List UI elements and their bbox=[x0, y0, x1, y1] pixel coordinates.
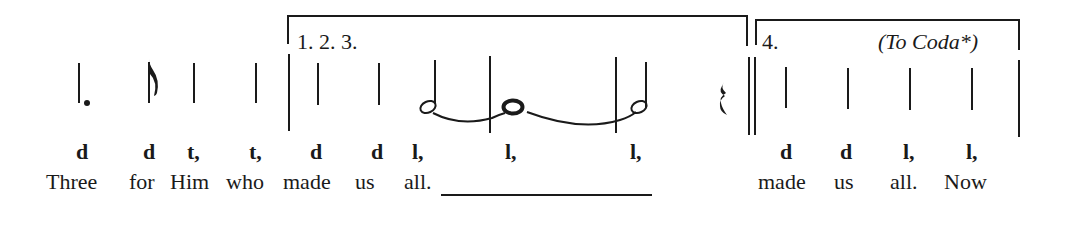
whole-note-head bbox=[504, 101, 523, 114]
augmentation-dot bbox=[84, 100, 90, 106]
lyric-word: for bbox=[129, 170, 155, 194]
solfa-syllable: d bbox=[840, 141, 852, 163]
solfa-syllable: d bbox=[371, 141, 383, 163]
solfa-syllable: d bbox=[780, 141, 792, 163]
lyric-word: all. bbox=[404, 170, 432, 194]
ending-label-4: 4. bbox=[762, 30, 779, 54]
solfa-syllable: l, bbox=[412, 141, 424, 163]
lyric-word: Now bbox=[944, 170, 987, 194]
solfa-syllable: l, bbox=[630, 141, 642, 163]
solfa-syllable: d bbox=[310, 141, 322, 163]
lyric-word: who bbox=[226, 170, 264, 194]
solfa-syllable: d bbox=[76, 141, 88, 163]
lyric-word: us bbox=[834, 170, 854, 194]
tie bbox=[527, 112, 636, 125]
lyric-word: us bbox=[355, 170, 375, 194]
eighth-flag-icon bbox=[149, 59, 158, 96]
quarter-rest-icon bbox=[720, 82, 727, 115]
coda-instruction: (To Coda*) bbox=[878, 30, 978, 54]
solfa-syllable: l, bbox=[966, 141, 978, 163]
solfa-syllable: l, bbox=[903, 141, 915, 163]
lyric-word: all. bbox=[890, 170, 918, 194]
lyric-word: Three bbox=[46, 170, 97, 194]
solfa-syllable: t, bbox=[249, 141, 262, 163]
solfa-syllable: d bbox=[143, 141, 155, 163]
solfa-syllable: l, bbox=[505, 141, 517, 163]
lyric-word: made bbox=[758, 170, 806, 194]
tie bbox=[433, 113, 505, 122]
lyric-word: Him bbox=[170, 170, 209, 194]
ending-label-1-2-3: 1. 2. 3. bbox=[297, 30, 358, 54]
solfa-syllable: t, bbox=[187, 141, 200, 163]
melisma-extender-line bbox=[441, 194, 652, 196]
lyric-word: made bbox=[283, 170, 331, 194]
